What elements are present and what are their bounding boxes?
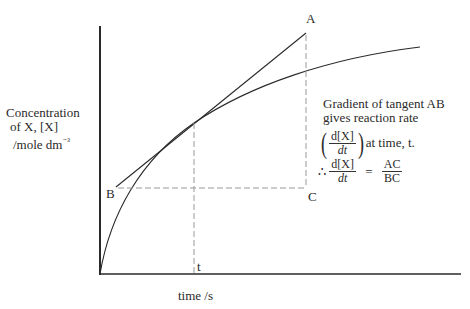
left-paren: (	[321, 128, 327, 158]
therefore-symbol: ∴	[318, 164, 326, 179]
y-axis-label: Concentration of X, [X] /mole dm⁻³	[6, 106, 80, 152]
rhs-numerator: AC	[382, 158, 403, 172]
rhs-denominator: BC	[382, 172, 403, 185]
y-label-line1: Concentration	[6, 106, 80, 120]
point-t-label: t	[197, 260, 201, 274]
equals-sign: =	[359, 164, 378, 179]
tangent-line-ab	[116, 33, 306, 187]
lhs-numerator: d[X]	[329, 158, 356, 172]
right-paren: )	[358, 128, 364, 158]
point-b-label: B	[106, 187, 115, 201]
y-label-line2: of X, [X]	[6, 120, 80, 134]
derivative-denominator: dt	[329, 144, 356, 157]
rhs-fraction: ACBC	[382, 158, 403, 185]
y-label-exponent: ⁻³	[62, 136, 69, 146]
annotation-at-time: at time, t.	[366, 135, 415, 150]
lhs-denominator: dt	[329, 172, 356, 185]
annotation-equation-row: ∴ d[X]dt = ACBC	[318, 158, 445, 185]
annotation-line1: Gradient of tangent AB	[323, 97, 445, 111]
annotation-derivative-row: (d[X]dt)at time, t.	[319, 128, 445, 158]
y-label-unit: /mole dm	[13, 137, 62, 152]
gradient-annotation: Gradient of tangent AB gives reaction ra…	[323, 97, 445, 185]
y-label-line3: /mole dm⁻³	[6, 134, 80, 152]
lhs-fraction: d[X]dt	[329, 158, 356, 185]
derivative-fraction: d[X]dt	[329, 130, 356, 157]
x-axis-label: time /s	[178, 289, 213, 303]
point-c-label: C	[308, 190, 317, 204]
derivative-numerator: d[X]	[329, 130, 356, 144]
annotation-line2: gives reaction rate	[323, 111, 445, 125]
point-a-label: A	[306, 12, 315, 26]
